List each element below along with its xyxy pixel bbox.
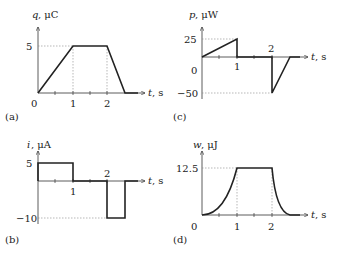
x-tick-2: 2 xyxy=(104,168,110,179)
y-tick-5: 5 xyxy=(26,158,32,169)
x-tick-2: 2 xyxy=(268,43,274,54)
panel-label-a: (a) xyxy=(5,111,19,122)
y-tick-neg10: −10 xyxy=(16,213,37,224)
power-curve xyxy=(202,39,300,93)
x-tick-1: 1 xyxy=(234,61,240,72)
chart-a-charge: q , μC 5 0 1 2 t , s (a) xyxy=(5,9,164,122)
x-label-unit: , s xyxy=(152,175,164,186)
y-label-unit: , μW xyxy=(195,9,219,20)
x-tick-2: 2 xyxy=(268,221,274,232)
y-tick-25: 25 xyxy=(184,34,197,45)
energy-curve xyxy=(202,168,300,215)
figure-canvas: q , μC 5 0 1 2 t , s (a) p , μW 25 0 −50… xyxy=(0,0,342,255)
x-label-unit: , s xyxy=(315,209,327,220)
x-tick-1: 1 xyxy=(70,186,76,197)
chart-d-energy: w , μJ 12.5 0 1 2 t , s (d) xyxy=(173,139,327,245)
panel-label-d: (d) xyxy=(173,234,187,245)
x-tick-2: 2 xyxy=(104,98,110,109)
x-tick-1: 1 xyxy=(234,221,240,232)
chart-c-power: p , μW 25 0 −50 1 2 t , s (c) xyxy=(173,9,327,122)
y-label-unit: , μJ xyxy=(201,139,218,150)
x-label-unit: , s xyxy=(315,51,327,62)
y-label-var: i xyxy=(27,139,30,150)
x-tick-1: 1 xyxy=(70,98,76,109)
x-label-unit: , s xyxy=(152,87,164,98)
y-tick-12-5: 12.5 xyxy=(176,163,198,174)
y-label-unit: , μC xyxy=(38,9,59,20)
y-tick-neg50: −50 xyxy=(177,88,198,99)
charge-curve xyxy=(38,46,138,93)
current-curve xyxy=(38,163,138,218)
y-tick-5: 5 xyxy=(26,41,32,52)
y-label-unit: , μA xyxy=(31,139,52,150)
panel-label-b: (b) xyxy=(5,234,19,245)
chart-b-current: i , μA 5 −10 1 2 t , s (b) xyxy=(5,139,164,245)
origin-label: 0 xyxy=(191,221,197,232)
origin-label: 0 xyxy=(31,98,37,109)
origin-label: 0 xyxy=(191,65,197,76)
panel-label-c: (c) xyxy=(173,111,187,122)
